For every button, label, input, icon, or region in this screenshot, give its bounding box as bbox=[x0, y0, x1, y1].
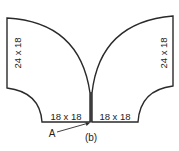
right-lower-dimension: 18 x 18 bbox=[99, 111, 130, 122]
left-piece-outline bbox=[7, 18, 90, 122]
callout-arrowhead-icon bbox=[86, 122, 91, 126]
callout-leader-line bbox=[57, 124, 87, 133]
left-upper-dimension: 24 x 18 bbox=[12, 37, 23, 68]
left-lower-dimension: 18 x 18 bbox=[50, 111, 81, 122]
duct-fitting-diagram: 24 x 18 24 x 18 18 x 18 18 x 18 A (b) bbox=[0, 0, 179, 151]
right-upper-dimension: 24 x 18 bbox=[158, 37, 169, 68]
figure-caption: (b) bbox=[85, 132, 97, 143]
callout-label-a: A bbox=[49, 128, 56, 139]
